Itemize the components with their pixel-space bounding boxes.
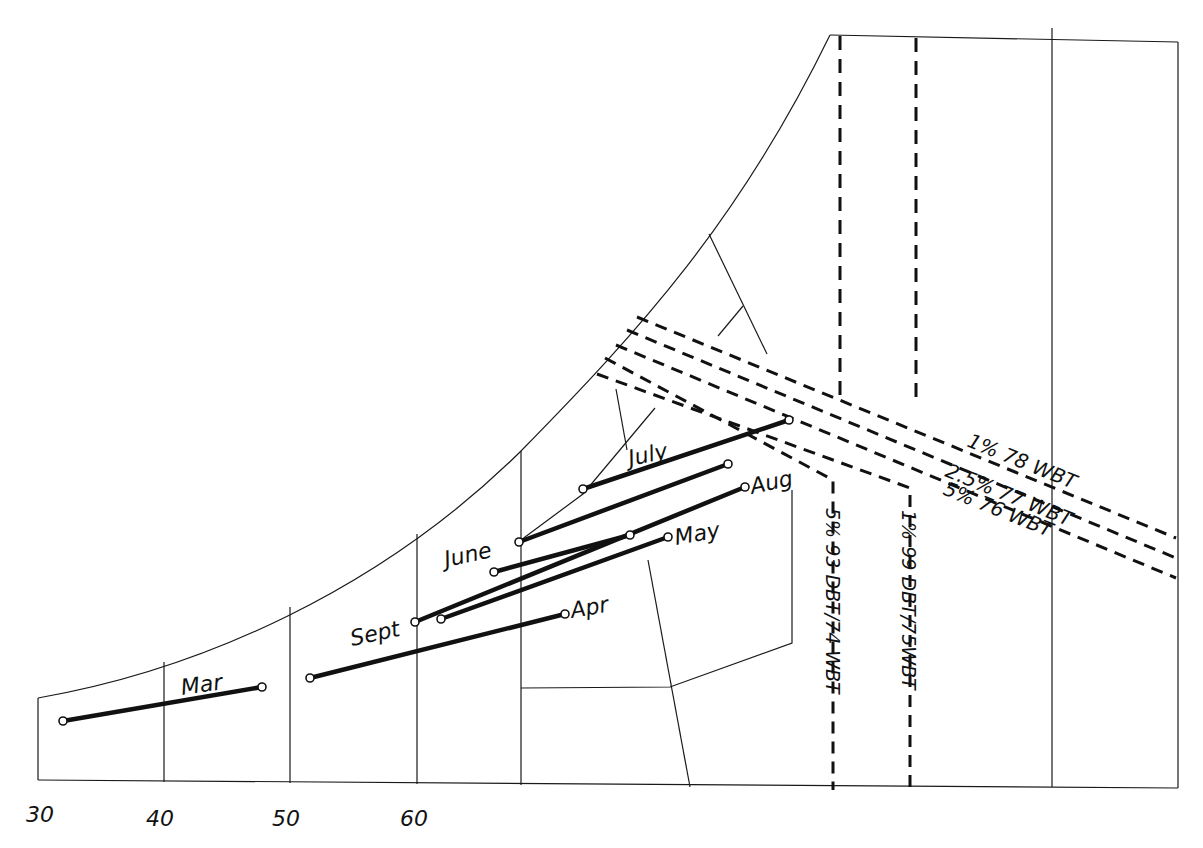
label-dbt-1: 1% 99 DBT/75WBT bbox=[898, 510, 920, 691]
x-tick-40: 40 bbox=[146, 806, 174, 831]
label-june: June bbox=[438, 537, 494, 572]
x-tick-60: 60 bbox=[400, 806, 428, 831]
label-sept: Sept bbox=[348, 616, 404, 651]
month-lines bbox=[59, 416, 793, 725]
x-tick-30: 30 bbox=[26, 802, 54, 827]
psychrometric-chart: Mar Apr May June July Aug Sept 1% 78 WBT… bbox=[0, 0, 1203, 848]
label-july: July bbox=[622, 438, 671, 472]
wet-bulb-lines bbox=[597, 317, 1176, 790]
mar-line bbox=[63, 687, 262, 721]
x-tick-50: 50 bbox=[272, 806, 300, 831]
sept-line bbox=[494, 535, 630, 572]
label-dbt-5: 5% 93 DBT/74 WBT bbox=[822, 508, 844, 695]
label-aug: Aug bbox=[746, 465, 795, 499]
apr-line bbox=[310, 614, 565, 678]
label-apr: Apr bbox=[567, 591, 613, 623]
label-may: May bbox=[673, 517, 723, 550]
